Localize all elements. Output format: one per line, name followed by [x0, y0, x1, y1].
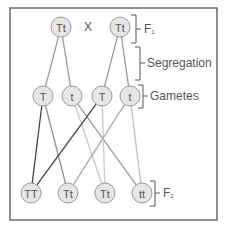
offspring-node-o3: Tt	[95, 183, 115, 203]
label-segregation: Segregation	[147, 56, 212, 70]
gametes-node-g1: T	[33, 86, 53, 106]
label-f2: F2	[163, 186, 174, 200]
edge-p2-g3	[105, 37, 118, 87]
edge-g4-o2	[73, 104, 124, 184]
edge-p2-g4	[121, 37, 128, 86]
inheritance-lines	[32, 37, 141, 185]
gametes-node-g3: T	[92, 86, 112, 106]
genotype-label: Tt	[115, 22, 125, 34]
genotype-label: t	[70, 91, 73, 103]
bracket-segregation	[135, 47, 145, 80]
offspring-node-o2: Tt	[58, 183, 78, 203]
label-gametes: Gametes	[150, 89, 199, 103]
genotype-label: T	[40, 91, 47, 103]
edge-g3-o1	[37, 104, 96, 185]
genotype-label: T	[99, 91, 106, 103]
edge-g1-o1	[32, 106, 42, 183]
bracket-f1	[131, 15, 141, 43]
edge-p1-g1	[46, 37, 59, 87]
edge-g3-o3	[102, 106, 104, 183]
genotype-label: Tt	[56, 22, 66, 34]
genotype-label: Tt	[100, 188, 110, 200]
cross-symbol: X	[84, 20, 92, 34]
monohybrid-cross-diagram: TtTtTtTtTTTtTttt X F1 Segregation Gamete…	[0, 0, 227, 227]
label-f1: F1	[144, 22, 155, 36]
edge-g1-o2	[45, 106, 65, 184]
genotype-label: tt	[139, 188, 145, 200]
gametes-node-g4: t	[120, 86, 140, 106]
genotype-label: t	[128, 91, 131, 103]
offspring-node-o1: TT	[21, 183, 41, 203]
genotype-label: Tt	[63, 188, 73, 200]
gametes-node-g2: t	[62, 86, 82, 106]
parents-node-p1: Tt	[51, 17, 71, 37]
parents-node-p2: Tt	[110, 17, 130, 37]
edge-g4-o4	[131, 106, 141, 183]
edge-p1-g2	[63, 37, 71, 86]
genotype-label: TT	[24, 188, 38, 200]
offspring-node-o4: tt	[132, 183, 152, 203]
edge-g2-o3	[75, 105, 102, 183]
